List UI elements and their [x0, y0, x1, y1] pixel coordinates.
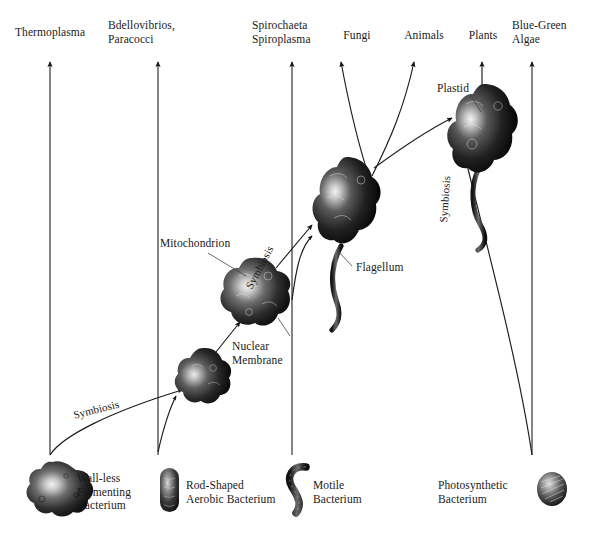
- label-spirochaeta: Spirochaeta Spiroplasma: [252, 19, 342, 46]
- symbiosis-arrow-bdellovibrios: [158, 396, 176, 452]
- label-plants: Plants: [455, 29, 511, 43]
- label-nuclear-membrane: Nuclear Membrane: [232, 340, 302, 367]
- leader-flagellum: [337, 250, 352, 266]
- label-wall-less-fermenting-bacterium: Wall-less Fermenting Bacterium: [77, 472, 143, 513]
- label-photosynthetic-bacterium: Photosynthetic Bacterium: [438, 479, 530, 506]
- diagram-graphics: [0, 0, 593, 546]
- label-plastid: Plastid: [437, 82, 485, 96]
- cell-photosynthetic-bacterium: [537, 472, 567, 506]
- label-bdellovibrios: Bdellovibrios, Paracocci: [108, 19, 212, 46]
- label-fungi: Fungi: [333, 29, 381, 43]
- cell-flagellated-eukaryote: [313, 157, 381, 330]
- leader-nuclear-membrane: [278, 318, 290, 336]
- label-motile-bacterium: Motile Bacterium: [313, 479, 373, 506]
- leader-mitochondrion: [208, 253, 246, 276]
- label-animals: Animals: [395, 29, 453, 43]
- diagram-canvas: Thermoplasma Bdellovibrios, Paracocci Sp…: [0, 0, 593, 546]
- label-thermoplasma: Thermoplasma: [4, 26, 96, 40]
- arrow-nucleated-to-flagellate: [276, 225, 312, 268]
- label-rod-shaped-aerobic-bacterium: Rod-Shaped Aerobic Bacterium: [186, 479, 290, 506]
- cell-rod-shaped-aerobic-bacterium: [160, 468, 179, 512]
- arrow-to-animals: [372, 62, 414, 176]
- arrow-flagellate-to-plantcell: [374, 118, 452, 168]
- label-flagellum: Flagellum: [356, 261, 418, 275]
- label-mitochondrion: Mitochondrion: [160, 237, 264, 251]
- cell-motile-bacterium: [290, 467, 306, 513]
- label-blue-green-algae: Blue-Green Algae: [512, 19, 586, 46]
- cell-early-amoeboid: [175, 348, 231, 404]
- symbiosis-arrow-blue-green-algae: [460, 136, 532, 455]
- cell-plant-with-plastid: [447, 84, 518, 250]
